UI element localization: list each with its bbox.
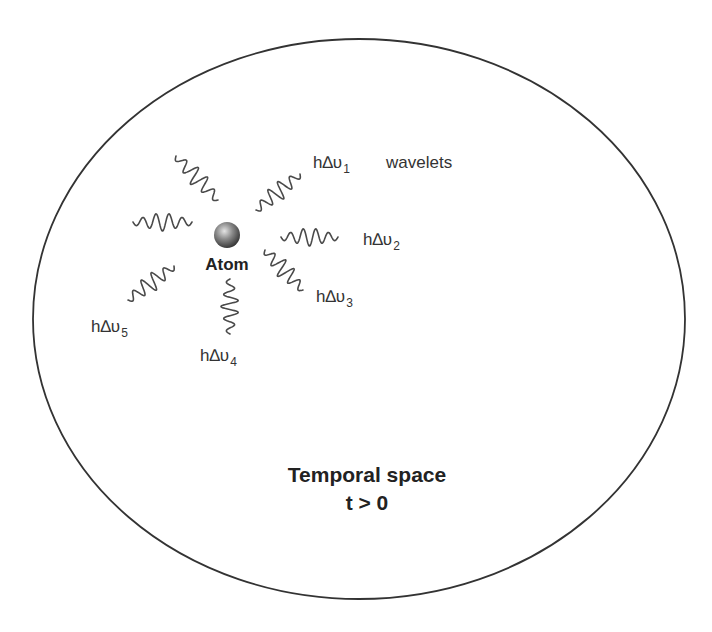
emission-label-1: h∆υ1 — [313, 153, 350, 176]
emission-label-4: h∆υ4 — [200, 346, 237, 369]
atom-sphere — [214, 222, 240, 248]
atom-label: Atom — [205, 255, 248, 274]
temporal-space-boundary — [33, 39, 685, 599]
emission-label-2: h∆υ2 — [363, 230, 400, 253]
region-condition: t > 0 — [346, 491, 389, 514]
region-title: Temporal space — [288, 463, 446, 486]
temporal-space-diagram: Atom h∆υ1 wavelets h∆υ2 h∆υ3 h∆υ4 h∆υ5 T… — [0, 0, 712, 632]
wavelet-lower-right-icon — [264, 250, 303, 291]
wavelet-lower-left-icon — [128, 266, 174, 301]
wavelet-right-icon — [281, 229, 338, 246]
emission-label-5: h∆υ5 — [91, 317, 128, 340]
wavelet-upper-left-icon — [175, 156, 218, 201]
wavelet-down-icon — [221, 279, 238, 334]
wavelet-left-icon — [133, 214, 192, 231]
emission-label-3: h∆υ3 — [316, 287, 353, 310]
wavelet-upper-right-icon — [256, 174, 300, 211]
wavelets-label: wavelets — [385, 153, 452, 172]
diagram-canvas: Atom h∆υ1 wavelets h∆υ2 h∆υ3 h∆υ4 h∆υ5 T… — [0, 0, 712, 632]
